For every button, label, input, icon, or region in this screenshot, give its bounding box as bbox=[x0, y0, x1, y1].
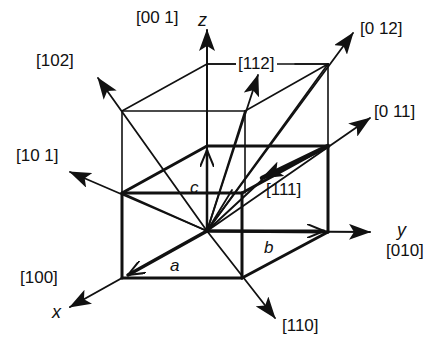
label-dir-011: [0 11] bbox=[374, 103, 415, 120]
label-axis-y: y bbox=[397, 221, 406, 239]
label-vector-b: b bbox=[264, 239, 273, 256]
direction-rays bbox=[70, 33, 370, 318]
label-dir-102: [102] bbox=[36, 52, 74, 69]
label-dir-111: [111] bbox=[266, 181, 301, 198]
label-dir-110: [110] bbox=[282, 317, 319, 334]
unit-cube bbox=[122, 146, 328, 278]
crystal-direction-diagram: [00 1] z [102] [112] [0 12] [0 11] [10 1… bbox=[0, 0, 438, 345]
label-vector-c: c bbox=[190, 179, 199, 196]
vector-a-arrow bbox=[128, 231, 207, 275]
label-vector-a: a bbox=[170, 257, 179, 274]
label-dir-001: [00 1] bbox=[136, 9, 179, 26]
label-dir-012: [0 12] bbox=[360, 20, 403, 37]
label-dir-010: [010] bbox=[386, 242, 424, 259]
label-dir-112: [112] bbox=[236, 55, 277, 72]
label-axis-x: x bbox=[52, 303, 61, 321]
label-dir-101: [10 1] bbox=[16, 147, 59, 164]
label-dir-100: [100] bbox=[20, 269, 58, 286]
label-axis-z: z bbox=[198, 11, 207, 29]
